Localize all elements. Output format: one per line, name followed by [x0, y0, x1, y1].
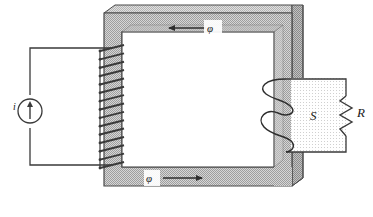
flux-bottom-label: φ [146, 172, 152, 184]
secondary-region [291, 78, 346, 152]
resistor-label: R [356, 105, 365, 120]
flux-top-label: φ [207, 22, 213, 34]
current-source-icon [18, 99, 42, 123]
figure-root: φ φ i S [0, 0, 373, 217]
transformer-diagram: φ φ i S [0, 0, 373, 217]
core-corner-shadow [274, 167, 292, 186]
core-window-bevel-right [274, 25, 283, 167]
magnetic-core [104, 5, 303, 186]
core-window [122, 32, 274, 167]
current-source-label: i [13, 101, 16, 112]
secondary-region-label: S [310, 108, 317, 123]
